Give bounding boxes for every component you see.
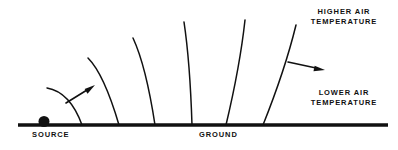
wavefront-group bbox=[47, 20, 296, 125]
propagation-arrow-left bbox=[66, 85, 95, 103]
lower-air-temperature-label: LOWER AIR TEMPERATURE bbox=[294, 88, 394, 107]
wavefront-arc bbox=[263, 25, 296, 125]
source-marker-group bbox=[39, 116, 50, 127]
source-dot-icon bbox=[39, 116, 50, 127]
arrow-group bbox=[66, 62, 325, 103]
wavefront-arc bbox=[88, 58, 119, 125]
wavefront-arc bbox=[226, 20, 245, 125]
arrow-head-icon bbox=[85, 85, 95, 94]
propagation-arrow-right bbox=[288, 62, 325, 71]
ground-label: GROUND bbox=[199, 130, 238, 140]
arrow-head-icon bbox=[313, 66, 325, 71]
refraction-diagram: SOURCE GROUND HIGHER AIR TEMPERATURE LOW… bbox=[0, 0, 398, 150]
wavefront-arc bbox=[47, 88, 82, 125]
arrow-shaft bbox=[288, 62, 317, 68]
arrow-shaft bbox=[66, 89, 88, 103]
source-label: SOURCE bbox=[32, 130, 70, 140]
wavefront-arc bbox=[133, 38, 155, 125]
wavefront-arc bbox=[184, 22, 192, 125]
higher-air-temperature-label: HIGHER AIR TEMPERATURE bbox=[294, 7, 394, 26]
